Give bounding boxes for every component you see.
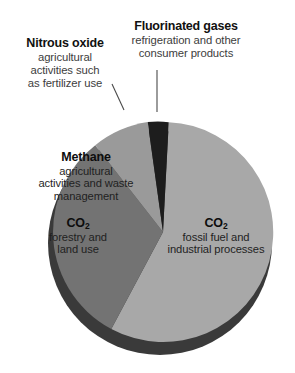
callout-nitrous-oxide-line2: activities such [4, 64, 126, 77]
callout-nitrous-oxide: Nitrous oxide agricultural activities su… [4, 36, 126, 90]
co2-forestry-formula-prefix: CO [67, 216, 85, 230]
slice-label-co2-fossil: CO2 fossil fuel and industrial processes [152, 216, 280, 256]
callout-nitrous-oxide-head: Nitrous oxide [4, 36, 126, 51]
slice-label-co2-forestry-head: CO2 [24, 216, 132, 231]
slice-label-methane-line2: activities and waste [12, 177, 160, 190]
slice-label-co2-forestry: CO2 forestry and land use [24, 216, 132, 256]
callout-nitrous-oxide-line1: agricultural [4, 51, 126, 64]
greenhouse-gas-pie-figure: Nitrous oxide agricultural activities su… [0, 0, 295, 373]
slice-label-methane-head: Methane [12, 150, 160, 165]
slice-label-methane-line3: management [12, 190, 160, 203]
co2-fossil-formula-prefix: CO [205, 216, 223, 230]
callout-fluorinated-gases-line1: refrigeration and other [120, 34, 252, 47]
slice-label-co2-forestry-line2: land use [24, 243, 132, 256]
callout-fluorinated-gases-line2: consumer products [120, 47, 252, 60]
callout-nitrous-oxide-line3: as fertilizer use [4, 77, 126, 90]
co2-fossil-formula-subscript: 2 [223, 221, 228, 231]
callout-fluorinated-gases-head: Fluorinated gases [120, 19, 252, 34]
co2-forestry-formula-subscript: 2 [85, 221, 90, 231]
slice-label-methane-line1: agricultural [12, 165, 160, 178]
callout-fluorinated-gases: Fluorinated gases refrigeration and othe… [120, 19, 252, 60]
slice-label-co2-forestry-line1: forestry and [24, 231, 132, 244]
slice-label-co2-fossil-head: CO2 [152, 216, 280, 231]
slice-label-co2-fossil-line2: industrial processes [152, 243, 280, 256]
slice-label-co2-fossil-line1: fossil fuel and [152, 231, 280, 244]
slice-label-methane: Methane agricultural activities and wast… [12, 150, 160, 203]
